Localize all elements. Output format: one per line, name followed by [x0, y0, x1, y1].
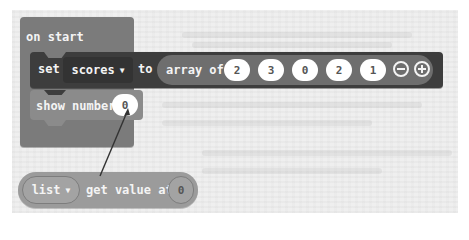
array-value-input[interactable]: 1: [360, 59, 386, 81]
array-value-input[interactable]: 2: [326, 59, 352, 81]
chevron-down-icon: ▼: [66, 186, 71, 195]
get-value-label: get value at: [86, 183, 173, 197]
background-text: [202, 150, 452, 156]
array-of-block[interactable]: array of 2 3 0 2 1: [157, 55, 433, 85]
set-variable-block[interactable]: set scores ▼ to array of 2 3 0 2 1: [30, 52, 443, 88]
variable-dropdown[interactable]: scores ▼: [63, 57, 133, 83]
background-text: [162, 120, 372, 126]
on-start-label: on start: [26, 30, 84, 44]
block-notch: [44, 52, 66, 58]
background-text: [192, 42, 392, 48]
list-dropdown[interactable]: list ▼: [22, 176, 80, 204]
array-of-label: array of: [166, 63, 224, 77]
background-text: [162, 102, 422, 108]
set-label: set: [38, 62, 60, 76]
array-value-input[interactable]: 2: [224, 59, 250, 81]
index-input[interactable]: 0: [168, 176, 194, 204]
minus-circle-icon[interactable]: [393, 61, 409, 77]
chevron-down-icon: ▼: [120, 66, 125, 75]
list-name: list: [32, 183, 61, 197]
array-value-input[interactable]: 3: [258, 59, 284, 81]
background-text: [182, 32, 412, 38]
block-notch: [44, 90, 66, 95]
get-value-block[interactable]: list ▼ get value at 0: [18, 172, 198, 208]
show-number-input[interactable]: 0: [112, 94, 138, 116]
array-value-input[interactable]: 0: [292, 59, 318, 81]
variable-name: scores: [71, 63, 114, 77]
show-number-block[interactable]: show number 0: [30, 90, 143, 120]
background-text: [202, 168, 382, 174]
plus-circle-icon[interactable]: [414, 61, 430, 77]
to-label: to: [138, 62, 152, 76]
show-number-label: show number: [36, 99, 115, 113]
